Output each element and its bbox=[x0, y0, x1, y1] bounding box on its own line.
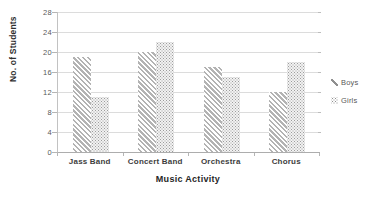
gridline-end-tick bbox=[318, 112, 321, 113]
legend-label-girls: Girls bbox=[341, 96, 357, 105]
x-category-label-chorus: Chorus bbox=[254, 157, 320, 166]
gridline-end-tick bbox=[318, 132, 321, 133]
gridline-end-tick bbox=[318, 92, 321, 93]
boys-diagonal-stripe-marker-icon bbox=[331, 79, 338, 86]
bar-boys-concert-band bbox=[138, 52, 156, 152]
x-category-label-jass-band: Jass Band bbox=[57, 157, 123, 166]
y-tick-mark bbox=[52, 72, 57, 73]
y-tick-label-20: 20 bbox=[0, 48, 52, 57]
x-category-label-orchestra: Orchestra bbox=[188, 157, 254, 166]
x-axis-category-labels: Jass BandConcert BandOrchestraChorus bbox=[57, 157, 319, 166]
plot-area bbox=[57, 12, 320, 153]
bar-girls-jass-band bbox=[91, 97, 109, 152]
x-axis-title: Music Activity bbox=[57, 174, 319, 184]
girls-dots-marker-icon bbox=[331, 97, 338, 104]
y-tick-label-16: 16 bbox=[0, 68, 52, 77]
bar-boys-orchestra bbox=[204, 67, 222, 152]
bar-boys-jass-band bbox=[73, 57, 91, 152]
y-tick-label-8: 8 bbox=[0, 108, 52, 117]
y-tick-mark bbox=[52, 112, 57, 113]
bar-boys-chorus bbox=[269, 92, 287, 152]
x-tick-mark bbox=[57, 153, 58, 156]
y-tick-label-4: 4 bbox=[0, 128, 52, 137]
x-tick-mark bbox=[123, 153, 124, 156]
legend-item-girls: Girls bbox=[331, 96, 365, 105]
gridline-end-tick bbox=[318, 12, 321, 13]
legend-item-boys: Boys bbox=[331, 78, 365, 87]
legend: Boys Girls bbox=[331, 78, 365, 114]
x-tick-mark bbox=[254, 153, 255, 156]
gridline-end-tick bbox=[318, 72, 321, 73]
x-tick-mark bbox=[188, 153, 189, 156]
y-tick-label-0: 0 bbox=[0, 148, 52, 157]
y-tick-mark bbox=[52, 52, 57, 53]
bar-girls-orchestra bbox=[222, 77, 240, 152]
bar-girls-chorus bbox=[287, 62, 305, 152]
gridline-y-28 bbox=[58, 12, 320, 13]
legend-label-boys: Boys bbox=[341, 78, 358, 87]
y-tick-mark bbox=[52, 92, 57, 93]
x-tick-mark bbox=[319, 153, 320, 156]
y-tick-label-28: 28 bbox=[0, 8, 52, 17]
gridline-y-24 bbox=[58, 32, 320, 33]
gridline-end-tick bbox=[318, 52, 321, 53]
y-tick-mark bbox=[52, 12, 57, 13]
bar-chart: No. of Students 0481216202428 Jass BandC… bbox=[0, 0, 366, 197]
y-tick-mark bbox=[52, 132, 57, 133]
y-tick-label-12: 12 bbox=[0, 88, 52, 97]
gridline-y-20 bbox=[58, 52, 320, 53]
x-category-label-concert-band: Concert Band bbox=[123, 157, 189, 166]
bar-girls-concert-band bbox=[156, 42, 174, 152]
gridline-end-tick bbox=[318, 32, 321, 33]
y-tick-mark bbox=[52, 32, 57, 33]
y-axis-tick-labels: 0481216202428 bbox=[0, 0, 52, 197]
gridline-y-16 bbox=[58, 72, 320, 73]
y-tick-label-24: 24 bbox=[0, 28, 52, 37]
